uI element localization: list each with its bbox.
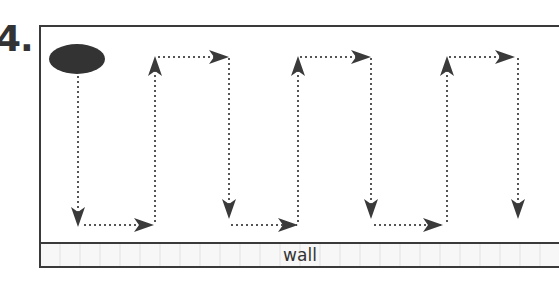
dotted-path xyxy=(78,57,518,226)
start-ellipse-icon xyxy=(49,44,105,74)
